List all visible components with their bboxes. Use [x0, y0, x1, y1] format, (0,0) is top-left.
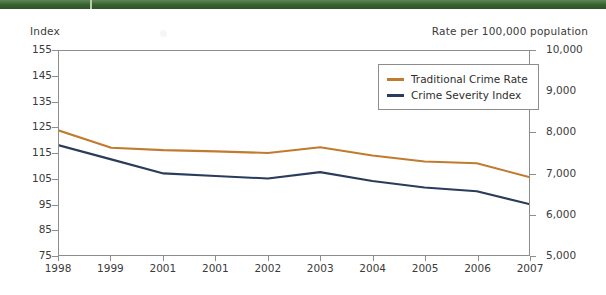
- x-axis-tick-label: 1999: [97, 262, 124, 274]
- top-green-band: [0, 0, 606, 9]
- x-axis-tick-mark: [425, 256, 426, 261]
- legend-label-traditional-crime-rate: Traditional Crime Rate: [411, 73, 528, 85]
- x-axis-tick-labels: 1998199920012001200220032004200520062007: [58, 262, 530, 280]
- x-axis-tick-label: 2006: [464, 262, 491, 274]
- x-axis-tick-label: 2004: [359, 262, 386, 274]
- series-line-traditional-crime-rate: [59, 131, 529, 178]
- right-axis-title: Rate per 100,000 population: [432, 25, 588, 37]
- right-axis-tick-mark: [530, 50, 536, 51]
- top-band-seam: [90, 0, 92, 9]
- x-axis-tick-mark: [163, 256, 164, 261]
- x-axis-tick-mark: [110, 256, 111, 261]
- x-axis-tick-mark: [478, 256, 479, 261]
- x-axis-tick-mark: [320, 256, 321, 261]
- right-axis-tick-mark: [530, 215, 536, 216]
- chart-figure: Index Rate per 100,000 population 758595…: [0, 0, 606, 295]
- x-axis-tick-label: 2007: [517, 262, 544, 274]
- right-axis-tick-mark: [530, 174, 536, 175]
- x-axis-tick-label: 2002: [254, 262, 281, 274]
- x-axis-tick-mark: [215, 256, 216, 261]
- x-axis-tick-mark: [530, 256, 531, 261]
- x-axis-tick-mark: [268, 256, 269, 261]
- x-axis-tick-mark: [373, 256, 374, 261]
- x-axis-tick-label: 2001: [150, 262, 177, 274]
- legend-item-traditional-crime-rate: Traditional Crime Rate: [387, 71, 528, 87]
- series-line-crime-severity-index: [59, 145, 529, 204]
- legend-item-crime-severity-index: Crime Severity Index: [387, 87, 528, 103]
- legend-swatch-traditional-crime-rate: [387, 78, 404, 81]
- x-axis-tick-label: 1998: [45, 262, 72, 274]
- x-axis-tick-label: 2003: [307, 262, 334, 274]
- x-axis-tick-mark: [58, 256, 59, 261]
- right-axis-tick-mark: [530, 132, 536, 133]
- chart-legend: Traditional Crime Rate Crime Severity In…: [378, 64, 539, 110]
- legend-swatch-crime-severity-index: [387, 94, 404, 97]
- paper-speck: [160, 30, 167, 37]
- legend-label-crime-severity-index: Crime Severity Index: [411, 89, 521, 101]
- x-axis-tick-label: 2001: [202, 262, 229, 274]
- left-axis-title: Index: [30, 25, 60, 37]
- x-axis-tick-label: 2005: [412, 262, 439, 274]
